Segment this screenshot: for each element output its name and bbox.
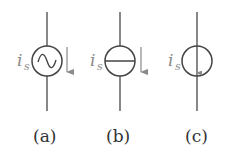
- sine-wave-icon: [38, 54, 56, 67]
- symbol-b: i s (b): [90, 12, 141, 146]
- diagram-canvas: i s (a) i s (b) i s (c): [0, 0, 229, 154]
- symbol-c: i s (c): [168, 12, 212, 146]
- subscript-label: s: [97, 60, 103, 73]
- caption: (b): [106, 126, 130, 146]
- subscript-label: s: [24, 60, 30, 73]
- variable-label: i: [168, 50, 173, 70]
- variable-label: i: [90, 50, 95, 70]
- subscript-label: s: [175, 60, 181, 73]
- caption: (c): [185, 126, 208, 146]
- symbol-a: i s (a): [17, 12, 67, 146]
- variable-label: i: [17, 50, 22, 70]
- caption: (a): [33, 126, 56, 146]
